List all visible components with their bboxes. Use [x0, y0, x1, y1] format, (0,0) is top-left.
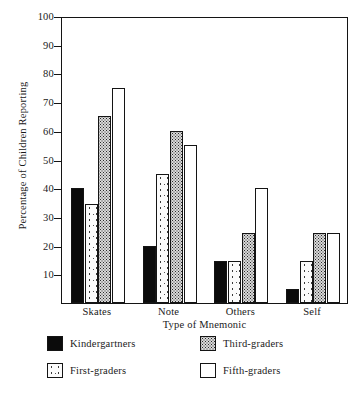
legend-item: Fifth-graders: [200, 363, 280, 378]
legend-swatch: [47, 336, 63, 351]
legend-item: Kindergartners: [47, 336, 136, 351]
y-axis-tick-label: 20: [6, 242, 54, 252]
y-axis-tick-label: 70: [6, 98, 54, 108]
x-axis-tick-label: Others: [205, 306, 277, 317]
bar: [242, 233, 255, 303]
legend-item: First-graders: [47, 363, 126, 378]
bar-group: [286, 18, 340, 303]
legend-label: Third-graders: [223, 338, 283, 349]
y-axis-tick-label: 50: [6, 156, 54, 166]
bar-group: [71, 18, 125, 303]
bar: [156, 174, 169, 303]
bar: [286, 289, 299, 303]
bar: [255, 188, 268, 303]
y-axis-tick-label: 80: [6, 69, 54, 79]
bar: [300, 261, 313, 303]
x-axis-title: Type of Mnemonic: [61, 319, 348, 330]
y-axis-tick-label: 40: [6, 184, 54, 194]
bar: [112, 88, 125, 303]
bar-chart-figure: Percentage of Children Reporting 1020304…: [0, 0, 362, 393]
legend-swatch: [47, 363, 63, 378]
legend-label: Kindergartners: [70, 338, 136, 349]
bar: [143, 246, 156, 303]
legend-swatch: [200, 336, 216, 351]
bar: [71, 188, 84, 303]
bar: [85, 204, 98, 303]
legend-swatch: [200, 363, 216, 378]
x-axis-tick-label: Note: [133, 306, 205, 317]
bar: [327, 233, 340, 303]
plot-area: [61, 17, 348, 304]
x-axis-tick-label: Self: [276, 306, 348, 317]
legend-item: Third-graders: [200, 336, 283, 351]
y-axis-tick-label: 90: [6, 41, 54, 51]
bar: [214, 261, 227, 303]
y-axis-tick-label: 100: [6, 12, 54, 22]
x-axis-tick-label: Skates: [61, 306, 133, 317]
chart-legend: KindergartnersThird-gradersFirst-graders…: [47, 336, 347, 390]
legend-label: First-graders: [70, 365, 126, 376]
bar: [184, 145, 197, 303]
legend-label: Fifth-graders: [223, 365, 280, 376]
bar: [170, 131, 183, 303]
bar: [228, 261, 241, 303]
y-axis-tick-label: 30: [6, 213, 54, 223]
bar-group: [143, 18, 197, 303]
y-axis-tick-label: 10: [6, 270, 54, 280]
y-axis-tick-label: 60: [6, 127, 54, 137]
bar-group: [214, 18, 268, 303]
bar: [98, 116, 111, 303]
bar: [313, 233, 326, 303]
